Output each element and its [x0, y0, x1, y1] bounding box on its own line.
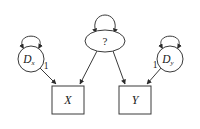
edge-label-dx-x: 1: [44, 61, 49, 71]
path-diagram-canvas: Dx ? Dy X Y 1 1: [0, 0, 200, 129]
node-x[interactable]: X: [52, 86, 84, 114]
edge-question-to-x: [80, 51, 97, 84]
node-question-label: ?: [103, 35, 108, 47]
edge-dy-to-y: [147, 68, 161, 84]
node-y[interactable]: Y: [119, 86, 151, 114]
node-dy[interactable]: Dy: [157, 46, 183, 72]
edge-question-to-y: [113, 51, 125, 84]
node-dx[interactable]: Dx: [18, 46, 44, 72]
node-question[interactable]: ?: [85, 30, 125, 52]
node-x-label: X: [63, 93, 72, 107]
edge-label-dy-y: 1: [153, 60, 158, 70]
